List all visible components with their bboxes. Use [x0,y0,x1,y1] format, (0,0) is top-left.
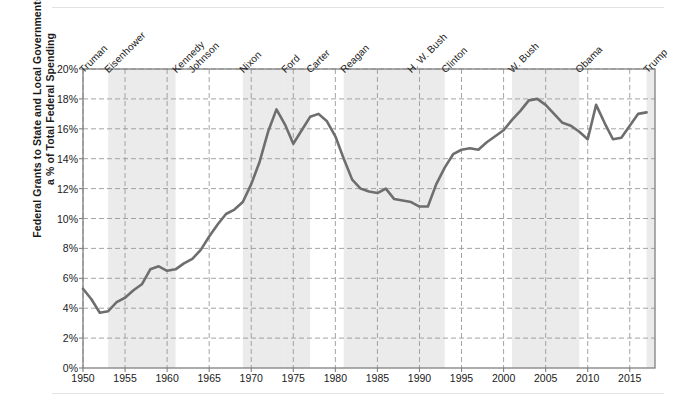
y-axis-tick-label: 10% [34,213,78,225]
x-axis-tick-label: 2015 [618,372,641,384]
x-axis-tick-label: 2000 [492,372,515,384]
x-axis-tick-label: 1960 [155,372,178,384]
y-axis-tick-label: 6% [34,272,78,284]
y-axis-tick-label: 16% [34,123,78,135]
x-axis-tick-label: 1975 [282,372,305,384]
y-axis-tick-label: 18% [34,93,78,105]
x-axis-tick-label: 2010 [576,372,599,384]
y-axis-tick-label: 14% [34,153,78,165]
y-axis-tick-label: 4% [34,302,78,314]
administration-band [285,69,310,368]
y-axis-tick-labels: 0%2%4%6%8%10%12%14%16%18%20% [34,0,78,413]
x-axis-tick-label: 1985 [366,372,389,384]
x-axis-tick-label: 1990 [408,372,431,384]
y-axis-tick-label: 20% [34,63,78,75]
x-axis-tick-label: 1950 [71,372,94,384]
x-axis-tick-label: 1955 [113,372,136,384]
x-axis-tick-label: 1980 [324,372,347,384]
y-axis-tick-label: 2% [34,332,78,344]
chart-figure: Federal Grants to State and Local Govern… [0,0,686,413]
x-axis-tick-label: 2005 [534,372,557,384]
x-axis-tick-label: 1995 [450,372,473,384]
y-axis-tick-label: 8% [34,242,78,254]
x-axis-tick-label: 1970 [240,372,263,384]
y-axis-tick-label: 12% [34,183,78,195]
x-axis-tick-label: 1965 [197,372,220,384]
